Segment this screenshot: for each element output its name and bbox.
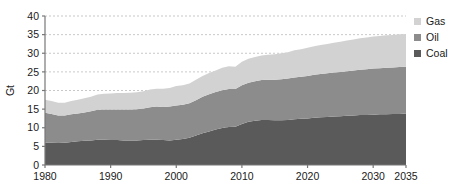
legend-swatch-oil [414, 34, 421, 41]
x-tick-label: 2035 [394, 170, 418, 182]
legend-swatch-gas [414, 18, 421, 25]
x-tick-label: 1990 [99, 170, 123, 182]
y-tick-label: 5 [33, 140, 39, 152]
y-tick-label: 0 [33, 159, 39, 171]
y-axis-ticks: 0510152025303540 [27, 10, 45, 171]
x-tick-label: 2020 [296, 170, 320, 182]
x-tick-label: 2000 [165, 170, 189, 182]
y-tick-label: 30 [27, 47, 39, 59]
y-axis-title: Gt [4, 85, 16, 96]
y-tick-label: 20 [27, 84, 39, 96]
x-tick-label: 2030 [362, 170, 386, 182]
stacked-area-chart: 0510152025303540Gt1980199020002010202020… [0, 0, 459, 195]
y-tick-label: 25 [27, 66, 39, 78]
legend-label-coal: Coal [426, 47, 448, 59]
x-axis-ticks: 1980199020002010202020302035 [33, 165, 418, 182]
legend-label-oil: Oil [426, 31, 439, 43]
legend: GasOilCoal [414, 15, 448, 59]
y-tick-label: 10 [27, 121, 39, 133]
y-tick-label: 15 [27, 103, 39, 115]
x-tick-label: 2010 [230, 170, 254, 182]
y-tick-label: 35 [27, 28, 39, 40]
chart-canvas: 0510152025303540Gt1980199020002010202020… [0, 0, 459, 195]
legend-label-gas: Gas [426, 15, 445, 27]
y-tick-label: 40 [27, 10, 39, 22]
x-tick-label: 1980 [33, 170, 57, 182]
legend-swatch-coal [414, 50, 421, 57]
